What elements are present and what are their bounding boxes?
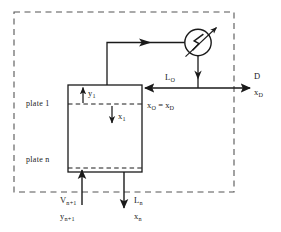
bottoms-flow-label: Ln [134, 196, 143, 205]
reflux-composition-label: xO=xD [147, 101, 174, 110]
distillate-flow-label: D [254, 72, 260, 81]
plate-1-label: plate 1 [26, 100, 50, 108]
vapor-feed-flow-label: Vn+1 [60, 196, 77, 205]
reflux-flow-label: LO [165, 73, 175, 82]
x1-label: x1 [118, 112, 126, 121]
y1-label: y1 [88, 89, 96, 98]
condenser-symbol [185, 28, 217, 57]
overhead-vapor-line [107, 39, 188, 85]
bottoms-composition-label: xn [134, 212, 142, 221]
vapor-feed-composition-label: yn+1 [60, 212, 75, 221]
distillate-composition-label: xD [254, 88, 263, 97]
distillation-diagram: plate 1 plate n y1 x1 LO xO=xD D xD Vn+1… [0, 0, 281, 232]
condenser-outlet-line [194, 56, 201, 88]
distillation-column-body [68, 85, 142, 172]
plate-n-label: plate n [26, 156, 50, 164]
